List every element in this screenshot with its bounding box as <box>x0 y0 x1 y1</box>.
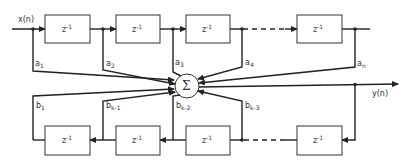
feedback-delay-box-4: z-1 <box>297 126 342 155</box>
output-line <box>199 84 398 87</box>
summing-junction: Σ <box>175 74 199 98</box>
tap-node <box>240 138 244 142</box>
forward-delay-box-2: z-1 <box>116 15 160 43</box>
coef-b1: b1 <box>36 101 45 111</box>
iir-filter-diagram: z-1 z-1 z-1 z-1 x(n) a1 a2 a3 a4 an Σ y(… <box>0 0 411 161</box>
feedback-delay-box-3: z-1 <box>186 126 230 155</box>
input-label: x(n) <box>18 15 34 24</box>
forward-delay-box-1: z-1 <box>45 15 90 43</box>
feedback-delay-box-1: z-1 <box>45 126 90 155</box>
sigma-symbol: Σ <box>182 79 190 93</box>
coef-a1: a1 <box>35 59 44 69</box>
output-label: y(n) <box>372 89 388 98</box>
forward-delay-box-4: z-1 <box>297 15 342 43</box>
coef-bk-1: bk-1 <box>106 101 121 111</box>
coef-bk-2: bk-2 <box>176 101 191 111</box>
coef-a4: a4 <box>245 58 254 68</box>
coef-a2: a2 <box>106 59 115 69</box>
coef-bk-3: bk-3 <box>245 101 260 111</box>
coef-an: an <box>357 59 366 69</box>
coef-a3: a3 <box>175 58 184 68</box>
feedback-delay-box-2: z-1 <box>116 126 160 155</box>
forward-delay-box-3: z-1 <box>186 15 230 43</box>
